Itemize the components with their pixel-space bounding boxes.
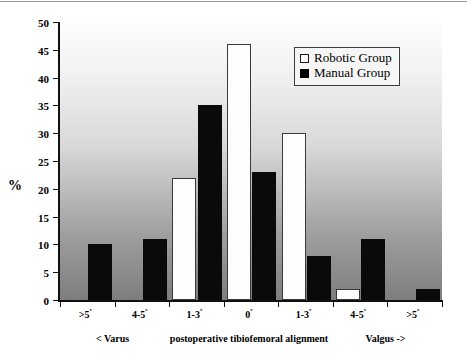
x-group-label-valgus: Valgus ->	[331, 333, 440, 344]
x-tick	[333, 300, 334, 307]
y-tick-label-20: 20	[38, 184, 49, 195]
y-tick-label-15: 15	[38, 212, 49, 223]
chart-legend: Robotic Group Manual Group	[294, 47, 400, 86]
y-tick-label-10: 10	[38, 240, 49, 251]
x-tick	[115, 300, 116, 307]
x-category-label: >5º	[58, 308, 113, 320]
bar-group	[60, 22, 115, 300]
y-tick-label-50: 50	[38, 18, 49, 29]
x-tick	[169, 300, 170, 307]
y-tick-label-5: 5	[44, 268, 50, 279]
bar-manual	[88, 244, 112, 300]
chart-figure: % 05101520253035404550 >5º4-5º1-3º0º1-3º…	[0, 0, 467, 359]
y-tick-5: 5	[53, 272, 60, 273]
x-tick	[442, 300, 443, 307]
bar-manual	[416, 289, 440, 300]
bar-manual	[361, 239, 385, 300]
y-tick-45: 45	[53, 50, 60, 51]
y-tick-label-25: 25	[38, 157, 49, 168]
y-axis-title: %	[8, 178, 22, 194]
legend-item-robotic: Robotic Group	[300, 51, 392, 66]
x-tick	[387, 300, 388, 307]
bar-manual	[143, 239, 167, 300]
legend-label-manual: Manual Group	[314, 66, 390, 81]
legend-item-manual: Manual Group	[300, 66, 392, 81]
x-tick	[224, 300, 225, 307]
bar-manual	[198, 105, 222, 300]
y-tick-35: 35	[53, 105, 60, 106]
y-tick-25: 25	[53, 161, 60, 162]
top-divider-rule	[0, 1, 467, 2]
x-category-label: 0º	[222, 308, 277, 320]
x-group-label-varus: < Varus	[58, 333, 167, 344]
x-category-label: 4-5º	[331, 308, 386, 320]
bar-robotic	[172, 178, 196, 300]
y-tick-40: 40	[53, 78, 60, 79]
y-tick-label-35: 35	[38, 101, 49, 112]
bar-robotic	[336, 289, 360, 300]
bar-group	[169, 22, 224, 300]
x-category-label: 4-5º	[113, 308, 168, 320]
open-square-icon	[300, 54, 309, 63]
bar-group	[115, 22, 170, 300]
legend-label-robotic: Robotic Group	[314, 51, 392, 66]
y-tick-20: 20	[53, 189, 60, 190]
y-tick-10: 10	[53, 244, 60, 245]
y-tick-label-30: 30	[38, 129, 49, 140]
bar-robotic	[227, 44, 251, 300]
bar-robotic	[282, 133, 306, 300]
x-tick	[278, 300, 279, 307]
y-tick-30: 30	[53, 133, 60, 134]
y-tick-label-40: 40	[38, 73, 49, 84]
bar-manual	[307, 256, 331, 300]
y-tick-0: 0	[53, 300, 60, 301]
y-tick-label-45: 45	[38, 45, 49, 56]
y-tick-50: 50	[53, 22, 60, 23]
filled-square-icon	[300, 69, 309, 78]
x-group-label-alignment: postoperative tibiofemoral alignment	[167, 333, 331, 344]
x-category-label: 1-3º	[167, 308, 222, 320]
y-tick-15: 15	[53, 217, 60, 218]
x-tick	[60, 300, 61, 307]
bar-manual	[252, 172, 276, 300]
bar-group	[224, 22, 279, 300]
x-category-label: >5º	[385, 308, 440, 320]
y-tick-label-0: 0	[44, 296, 50, 307]
x-category-label: 1-3º	[276, 308, 331, 320]
